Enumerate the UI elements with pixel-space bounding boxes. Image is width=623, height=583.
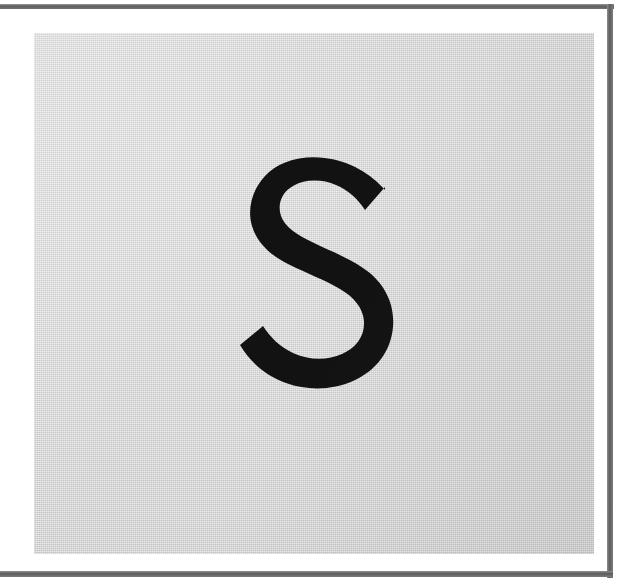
- right-rule: [607, 4, 613, 578]
- photographed-card: S: [34, 33, 594, 554]
- top-rule: [0, 4, 614, 9]
- glyph-container: S: [34, 33, 594, 554]
- letter-s-glyph: S: [230, 150, 400, 430]
- scanned-page: S: [0, 0, 623, 583]
- bottom-rule: [0, 571, 613, 577]
